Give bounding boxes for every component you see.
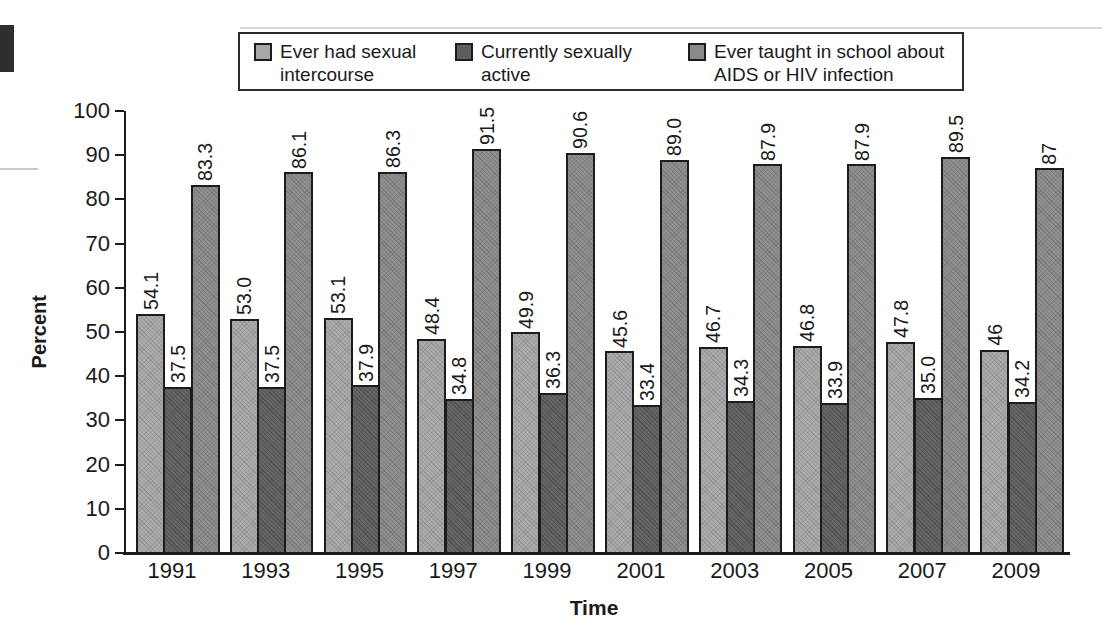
- bar-1999-series3: [566, 153, 595, 554]
- bar-value-label: 86.1: [288, 131, 310, 169]
- x-tick-label-1993: 1993: [219, 558, 313, 584]
- bar-value-label: 89.0: [663, 118, 685, 156]
- y-tick-label: 70: [58, 231, 110, 257]
- bar-value-label: 37.9: [355, 344, 377, 382]
- bar-value-label: 34.8: [448, 357, 470, 395]
- chart-legend: Ever had sexualintercourseCurrently sexu…: [238, 32, 964, 91]
- bar-value-label: 87.9: [851, 123, 873, 161]
- bar-1997-series3: [472, 149, 501, 554]
- legend-item-series3: Ever taught in school aboutAIDS or HIV i…: [688, 40, 944, 86]
- bar-1995-series2: [351, 385, 380, 554]
- bar-value-label: 53.0: [233, 277, 255, 315]
- bar-1995-series1: [324, 318, 353, 554]
- y-axis-line: [124, 111, 127, 553]
- y-tick-label: 90: [58, 142, 110, 168]
- bar-2007-series2: [914, 398, 943, 554]
- legend-item-series2: Currently sexuallyactive: [455, 40, 632, 86]
- bar-2009-series2: [1008, 402, 1037, 554]
- bar-value-label: 83.3: [194, 143, 216, 181]
- bar-value-label: 36.3: [542, 351, 564, 389]
- bar-2005-series3: [847, 164, 876, 554]
- bar-2003-series2: [726, 401, 755, 554]
- bar-value-label: 91.5: [476, 107, 498, 145]
- legend-label: Ever taught in school aboutAIDS or HIV i…: [714, 40, 944, 86]
- bar-value-label: 89.5: [945, 115, 967, 153]
- bar-1993-series2: [257, 387, 286, 554]
- bar-value-label: 45.6: [609, 310, 631, 348]
- x-tick-label-1999: 1999: [500, 558, 594, 584]
- x-tick-label-2005: 2005: [782, 558, 876, 584]
- bar-1993-series1: [230, 319, 259, 554]
- legend-swatch-icon: [455, 43, 473, 61]
- bar-2007-series3: [941, 157, 970, 554]
- bar-1991-series2: [163, 387, 192, 554]
- x-tick-label-2009: 2009: [969, 558, 1063, 584]
- y-tick-label: 20: [58, 452, 110, 478]
- x-tick-label-1997: 1997: [406, 558, 500, 584]
- legend-swatch-icon: [254, 43, 272, 61]
- x-tick-label-1991: 1991: [125, 558, 219, 584]
- bar-value-label: 46.8: [796, 304, 818, 342]
- bar-value-label: 37.5: [261, 345, 283, 383]
- y-tick-label: 80: [58, 186, 110, 212]
- bar-1995-series3: [378, 172, 407, 554]
- x-tick-label-2001: 2001: [594, 558, 688, 584]
- bar-1993-series3: [284, 172, 313, 554]
- y-tick-label: 50: [58, 319, 110, 345]
- bar-2007-series1: [886, 342, 915, 554]
- legend-label: Currently sexuallyactive: [481, 40, 632, 86]
- bar-value-label: 34.2: [1011, 360, 1033, 398]
- y-tick-label: 30: [58, 407, 110, 433]
- legend-label: Ever had sexualintercourse: [280, 40, 416, 86]
- bar-value-label: 49.9: [515, 291, 537, 329]
- bar-1997-series1: [417, 339, 446, 554]
- scan-artifact-top-line: [240, 27, 1102, 29]
- bar-value-label: 37.5: [167, 345, 189, 383]
- legend-item-series1: Ever had sexualintercourse: [254, 40, 416, 86]
- bar-value-label: 35.0: [917, 356, 939, 394]
- scan-artifact-corner-block: [0, 25, 14, 72]
- bar-value-label: 48.4: [421, 297, 443, 335]
- bar-value-label: 54.1: [140, 272, 162, 310]
- bar-value-label: 87: [1038, 143, 1060, 165]
- bar-value-label: 33.4: [636, 363, 658, 401]
- bar-2001-series1: [605, 351, 634, 554]
- bar-value-label: 46.7: [702, 305, 724, 343]
- bar-2001-series3: [660, 160, 689, 554]
- bar-value-label: 46: [984, 324, 1006, 346]
- y-tick-label: 100: [58, 98, 110, 124]
- bar-2003-series1: [699, 347, 728, 554]
- bar-2009-series1: [980, 350, 1009, 554]
- bar-value-label: 33.9: [824, 361, 846, 399]
- bar-value-label: 34.3: [730, 359, 752, 397]
- y-tick-label: 0: [58, 540, 110, 566]
- bar-value-label: 86.3: [382, 130, 404, 168]
- y-axis-title: Percent: [24, 111, 54, 553]
- x-axis-line: [123, 552, 1070, 555]
- bar-1999-series2: [539, 393, 568, 554]
- y-tick-label: 10: [58, 496, 110, 522]
- bar-1999-series1: [511, 332, 540, 554]
- y-tick-label: 60: [58, 275, 110, 301]
- y-tick-label: 40: [58, 363, 110, 389]
- bar-value-label: 90.6: [569, 111, 591, 149]
- legend-swatch-icon: [688, 43, 706, 61]
- bar-1991-series1: [136, 314, 165, 554]
- bar-2009-series3: [1035, 168, 1064, 554]
- scanned-bar-chart-figure: Ever had sexualintercourseCurrently sexu…: [0, 0, 1114, 632]
- bar-2005-series1: [793, 346, 822, 554]
- x-tick-label-1995: 1995: [313, 558, 407, 584]
- x-axis-title: Time: [125, 596, 1063, 620]
- bar-2001-series2: [632, 405, 661, 554]
- bar-2005-series2: [820, 403, 849, 554]
- bar-value-label: 87.9: [757, 123, 779, 161]
- x-tick-label-2003: 2003: [688, 558, 782, 584]
- y-axis-title-text: Percent: [28, 295, 51, 368]
- bar-2003-series3: [753, 164, 782, 554]
- bar-value-label: 53.1: [327, 276, 349, 314]
- bar-1991-series3: [191, 185, 220, 554]
- x-tick-label-2007: 2007: [875, 558, 969, 584]
- bar-value-label: 47.8: [890, 300, 912, 338]
- bar-1997-series2: [445, 399, 474, 554]
